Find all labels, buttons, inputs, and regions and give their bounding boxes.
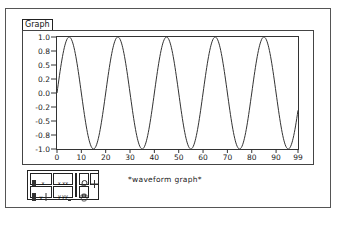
x-tick-label: 40 [150, 153, 160, 162]
x-tick-label: 60 [198, 153, 208, 162]
y-tick-label: -1.0 [35, 145, 50, 154]
graph-palette: x x.xx y y.yy [27, 170, 99, 200]
y-tick-label: -0.5 [35, 117, 50, 126]
graph-caption: *waveform graph* [128, 175, 202, 184]
cursor-tool-button[interactable] [90, 173, 99, 185]
y-precision-icon: y.yy [54, 192, 72, 202]
x-tick-label: 80 [247, 153, 257, 162]
y-axis: 1.00.80.50.20.0-0.2-0.5-0.8-1.0 [35, 33, 56, 154]
x-scale-format-button[interactable]: x [30, 173, 52, 185]
zoom-tool-button[interactable] [79, 173, 89, 185]
x-tick-label: 0 [55, 153, 60, 162]
svg-text:y: y [40, 194, 43, 201]
y-scale-icon: y [31, 192, 51, 202]
plot-area[interactable] [57, 37, 299, 150]
x-tick-label: 20 [101, 153, 111, 162]
pan-tool-button[interactable] [79, 186, 89, 198]
hand-icon [80, 192, 88, 202]
x-tick-label: 50 [174, 153, 184, 162]
x-tick-label: 90 [271, 153, 281, 162]
x-tick-label: 30 [125, 153, 135, 162]
y-tick-label: 0.8 [38, 47, 50, 56]
x-axis: 010203040506070809099 [55, 149, 303, 162]
y-tick-label: 1.0 [38, 33, 50, 42]
y-precision-button[interactable]: y.yy [53, 186, 73, 198]
y-tick-label: -0.8 [35, 131, 50, 140]
crosshair-icon [91, 179, 98, 189]
x-tick-label: 10 [77, 153, 87, 162]
x-precision-button[interactable]: x.xx [53, 173, 73, 185]
palette-divider [75, 173, 77, 197]
x-tick-label: 99 [293, 153, 303, 162]
y-tick-label: 0.2 [38, 75, 50, 84]
y-tick-label: 0.0 [38, 89, 50, 98]
y-tick-label: 0.5 [38, 61, 50, 70]
x-tick-label: 70 [223, 153, 233, 162]
y-scale-format-button[interactable]: y [30, 186, 52, 198]
svg-text:y.yy: y.yy [58, 193, 68, 200]
y-tick-label: -0.2 [35, 103, 50, 112]
